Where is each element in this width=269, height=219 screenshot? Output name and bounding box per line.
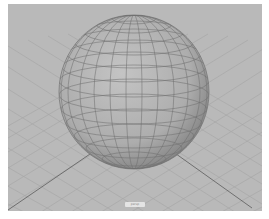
camera-name-label: persp — [125, 202, 145, 207]
3d-viewport[interactable]: persp — [8, 4, 262, 211]
scene-canvas[interactable] — [8, 4, 262, 211]
sphere-object[interactable] — [59, 12, 209, 169]
